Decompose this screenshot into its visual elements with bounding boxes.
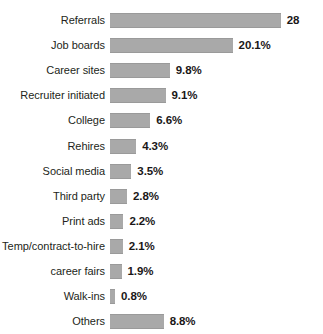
category-label: Referrals [0, 14, 110, 27]
category-label: Rehires [0, 140, 110, 153]
bar [110, 38, 233, 53]
bar-value-label: 0.8% [121, 290, 147, 303]
bar [110, 164, 131, 179]
category-label: career fairs [0, 265, 110, 278]
category-label: Career sites [0, 64, 110, 77]
bar [110, 289, 115, 304]
bar-track: 2.8% [110, 189, 323, 204]
bar-value-label: 2.2% [129, 215, 155, 228]
category-label: Walk-ins [0, 290, 110, 303]
bar-track: 6.6% [110, 113, 323, 128]
bar-value-label: 9.1% [172, 89, 198, 102]
bar-row: Rehires4.3% [0, 133, 323, 158]
category-label: Recruiter initiated [0, 89, 110, 102]
bar-track: 9.8% [110, 63, 323, 78]
bar [110, 113, 150, 128]
bar-value-label: 2.1% [129, 240, 155, 253]
bar [110, 88, 166, 103]
bar [110, 314, 164, 329]
bar-row: Third party2.8% [0, 184, 323, 209]
bar-row: Career sites9.8% [0, 58, 323, 83]
bar-row: Referrals28 [0, 8, 323, 33]
bar-track: 4.3% [110, 139, 323, 154]
bar-track: 9.1% [110, 88, 323, 103]
bar [110, 139, 136, 154]
bar [110, 63, 170, 78]
bar [110, 189, 127, 204]
category-label: Social media [0, 165, 110, 178]
bar-value-label: 6.6% [156, 114, 182, 127]
bar-row: Walk-ins0.8% [0, 284, 323, 309]
bar-value-label: 8.8% [170, 315, 196, 328]
bar-track: 20.1% [110, 38, 323, 53]
bar-track: 0.8% [110, 289, 323, 304]
bar-row: Recruiter initiated9.1% [0, 83, 323, 108]
category-label: Temp/contract-to-hire [0, 240, 110, 253]
bar-value-label: 2.8% [133, 190, 159, 203]
bar-track: 8.8% [110, 314, 323, 329]
bar-row: Print ads2.2% [0, 209, 323, 234]
bar-row: career fairs1.9% [0, 259, 323, 284]
bar-track: 2.2% [110, 214, 323, 229]
bar-track: 2.1% [110, 239, 323, 254]
bar-value-label: 1.9% [128, 265, 154, 278]
bar-row: Temp/contract-to-hire2.1% [0, 234, 323, 259]
bar-value-label: 20.1% [239, 39, 271, 52]
bar-value-label: 9.8% [176, 64, 202, 77]
bar-row: College6.6% [0, 108, 323, 133]
bar-value-label: 4.3% [142, 140, 168, 153]
bar-row: Social media3.5% [0, 159, 323, 184]
bar-track: 3.5% [110, 164, 323, 179]
category-label: Third party [0, 190, 110, 203]
bar-row: Others8.8% [0, 309, 323, 334]
bar-chart: Referrals28Job boards20.1%Career sites9.… [0, 0, 323, 334]
category-label: Others [0, 315, 110, 328]
bar [110, 13, 281, 28]
category-label: Job boards [0, 39, 110, 52]
bar-value-label: 28 [287, 14, 300, 27]
bar [110, 264, 122, 279]
bar-track: 28 [110, 13, 323, 28]
category-label: Print ads [0, 215, 110, 228]
bar [110, 239, 123, 254]
bar [110, 214, 123, 229]
bar-row: Job boards20.1% [0, 33, 323, 58]
bar-track: 1.9% [110, 264, 323, 279]
bar-value-label: 3.5% [137, 165, 163, 178]
category-label: College [0, 114, 110, 127]
